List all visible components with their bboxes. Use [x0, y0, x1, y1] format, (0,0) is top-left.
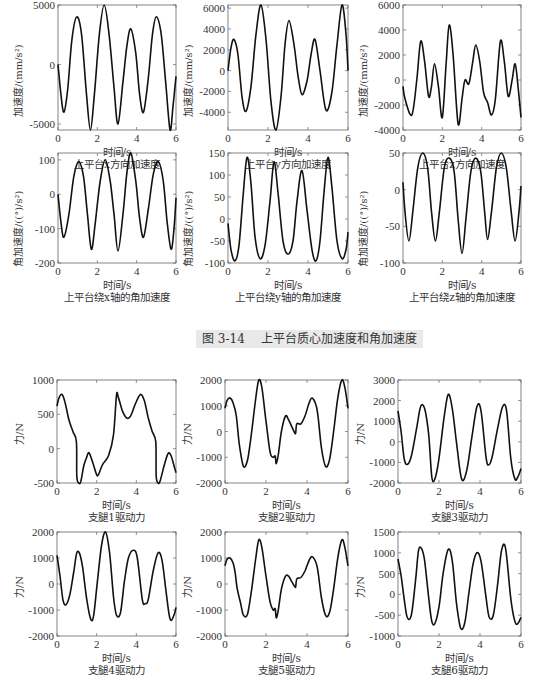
y-tick-label: -1000 [196, 604, 222, 616]
figure-caption: 图 3-14 上平台质心加速度和角加速度 [196, 330, 423, 348]
plot-area: 0246-2000-10000100020003000 [398, 380, 521, 483]
chart-title: 上平台绕x轴的角加速度 [18, 289, 216, 304]
x-tick-label: 4 [477, 485, 483, 497]
y-tick-label: 0 [390, 588, 396, 600]
plot-area: 0246-100-50050100150 [228, 153, 348, 263]
figure-title: 上平台质心加速度和角加速度 [261, 332, 417, 346]
x-tick-label: 4 [305, 265, 311, 277]
y-tick-label: -2000 [369, 477, 395, 489]
x-tick-label: 0 [54, 638, 60, 650]
x-tick-label: 0 [395, 485, 401, 497]
chart-9: 0246-2000-10000100020003000 [398, 380, 521, 483]
x-tick-label: 6 [518, 638, 524, 650]
y-axis-label: 加速度/(mm/s²) [355, 44, 370, 117]
plot-area: 0246-50005001000 [57, 380, 176, 483]
x-tick-label: 0 [225, 132, 231, 144]
chart-4: 0246-200-1000100 [58, 153, 176, 263]
y-tick-label: -2000 [196, 630, 222, 642]
y-tick-label: 0 [220, 65, 226, 77]
y-tick-label: 1000 [32, 374, 55, 386]
y-tick-label: -1000 [196, 451, 222, 463]
x-tick-label: 0 [222, 485, 228, 497]
y-tick-label: 2000 [200, 526, 223, 538]
chart-title: 上平台绕y轴的角加速度 [188, 289, 388, 304]
x-tick-label: 6 [173, 638, 179, 650]
x-tick-label: 2 [436, 485, 442, 497]
y-tick-label: -2000 [196, 477, 222, 489]
x-tick-label: 0 [395, 638, 401, 650]
data-line [225, 539, 348, 617]
y-tick-label: -200 [35, 257, 56, 269]
plot-area: 0246-2000-1000010002000 [225, 380, 348, 483]
x-tick-label: 0 [55, 265, 61, 277]
y-axis-label: 力/N [179, 423, 194, 445]
y-tick-label: 500 [379, 568, 396, 580]
y-tick-label: 1000 [200, 552, 223, 564]
data-line [403, 153, 521, 254]
y-tick-label: 6000 [203, 2, 226, 14]
y-tick-label: -100 [205, 257, 226, 269]
chart-10: 0246-2000-1000010002000 [57, 532, 176, 636]
data-line [403, 25, 521, 125]
x-tick-label: 6 [345, 638, 351, 650]
y-tick-label: 100 [39, 154, 56, 166]
x-tick-label: 6 [345, 265, 351, 277]
y-tick-label: 50 [214, 191, 226, 203]
y-tick-label: 1500 [373, 526, 396, 538]
y-tick-label: -100 [380, 257, 401, 269]
y-tick-label: 2000 [32, 526, 55, 538]
y-tick-label: 4000 [378, 24, 401, 36]
y-tick-label: 150 [209, 147, 226, 159]
plot-area: 0246-200-1000100 [58, 153, 176, 263]
x-tick-label: 0 [225, 265, 231, 277]
y-axis-label: 角加速度/((°)/s²) [355, 190, 370, 266]
chart-title: 上平台绕z轴的角加速度 [363, 289, 545, 304]
axes-frame [57, 532, 176, 636]
axes-frame [403, 5, 521, 130]
figure-number: 图 3-14 [202, 332, 245, 346]
y-tick-label: -1000 [28, 604, 54, 616]
x-tick-label: 4 [134, 132, 140, 144]
chart-title: 支腿6驱动力 [358, 662, 545, 677]
x-tick-label: 0 [55, 132, 61, 144]
data-line [57, 392, 176, 483]
y-axis-label: 角加速度/((°)/s²) [10, 190, 25, 266]
x-tick-label: 6 [173, 485, 179, 497]
x-tick-label: 2 [263, 638, 269, 650]
chart-12: 0246-1000-500050010001500 [398, 532, 521, 636]
x-tick-label: 2 [95, 265, 101, 277]
y-tick-label: 0 [49, 443, 55, 455]
chart-2: 0246-4000-20000200040006000 [228, 5, 348, 130]
x-tick-label: 4 [304, 485, 310, 497]
data-line [228, 5, 348, 130]
axes-frame [58, 5, 176, 130]
y-tick-label: -50 [385, 220, 400, 232]
y-tick-label: 0 [50, 188, 56, 200]
chart-1: 0246-500005000 [58, 5, 176, 130]
y-tick-label: 100 [209, 169, 226, 181]
y-tick-label: 0 [49, 578, 55, 590]
y-axis-label: 力/N [352, 423, 367, 445]
plot-area: 0246-100-50050 [403, 153, 521, 263]
y-axis-label: 力/N [11, 575, 26, 597]
x-tick-label: 2 [440, 132, 446, 144]
y-tick-label: -2000 [374, 99, 400, 111]
y-tick-label: 6000 [378, 0, 401, 11]
x-tick-label: 2 [95, 132, 101, 144]
y-tick-label: 5000 [33, 0, 56, 11]
chart-7: 0246-50005001000 [57, 380, 176, 483]
y-tick-label: 50 [389, 147, 401, 159]
y-tick-label: 0 [395, 74, 401, 86]
plot-area: 0246-4000-20000200040006000 [403, 5, 521, 130]
y-axis-label: 力/N [352, 575, 367, 597]
y-axis-label: 角加速度/((°)/s²) [180, 190, 195, 266]
y-tick-label: 4000 [203, 23, 226, 35]
y-tick-label: -1000 [369, 630, 395, 642]
data-line [398, 544, 521, 629]
data-line [225, 379, 348, 467]
x-tick-label: 6 [518, 132, 524, 144]
chart-8: 0246-2000-1000010002000 [225, 380, 348, 483]
x-tick-label: 0 [400, 265, 406, 277]
x-tick-label: 6 [173, 132, 179, 144]
y-tick-label: -1000 [369, 456, 395, 468]
